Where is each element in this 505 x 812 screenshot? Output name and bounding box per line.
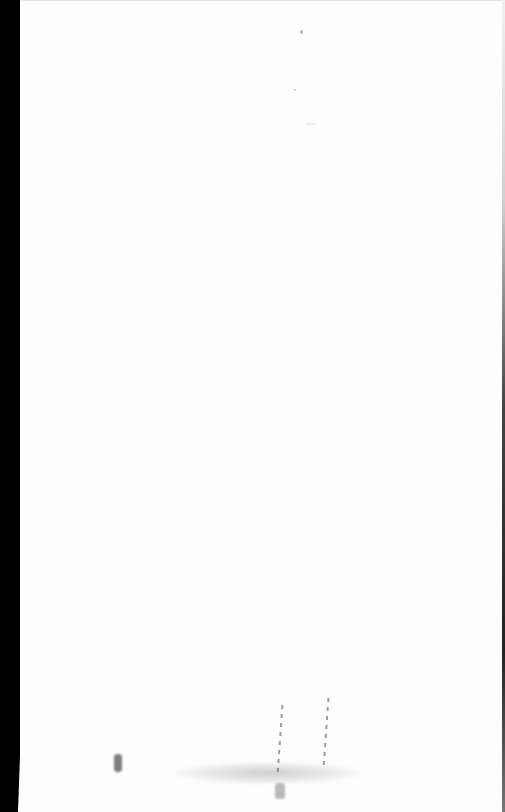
speck-upper [294,89,296,91]
speck-top [300,30,303,34]
smudge-band [175,762,360,784]
smudge-bottom [275,783,285,799]
speck-faint [306,123,316,125]
smudge-left-mark [114,754,122,772]
scanned-page [20,0,505,812]
